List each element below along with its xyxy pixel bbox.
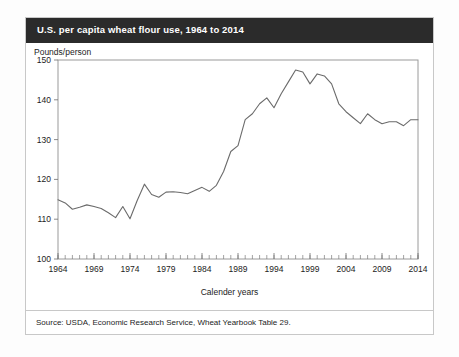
x-tick-label: 1969 (85, 264, 104, 274)
card-header: U.S. per capita wheat flour use, 1964 to… (26, 18, 433, 43)
page-title: U.S. per capita wheat flour use, 1964 to… (37, 24, 244, 35)
x-tick-label: 1974 (121, 264, 140, 274)
y-tick-label: 150 (37, 55, 51, 65)
source-note: Source: USDA, Economic Research Service,… (36, 318, 291, 327)
y-tick-label: 110 (37, 214, 51, 224)
x-tick-label: 1979 (157, 264, 176, 274)
x-tick-label: 2004 (337, 264, 356, 274)
y-tick-label: 100 (37, 254, 51, 264)
plot-frame (58, 60, 418, 259)
chart-card: U.S. per capita wheat flour use, 1964 to… (25, 17, 434, 335)
y-tick-label: 130 (37, 135, 51, 145)
card-footer: Source: USDA, Economic Research Service,… (26, 310, 433, 334)
x-tick-label: 1999 (301, 264, 320, 274)
x-tick-label: 1964 (49, 264, 68, 274)
x-tick-label: 1984 (193, 264, 212, 274)
chart-body: Pounds/person 10011012013014015019641969… (26, 43, 433, 311)
y-tick-label: 120 (37, 174, 51, 184)
line-chart: 1001101201301401501964196919741979198419… (26, 43, 435, 311)
data-series-line (58, 70, 418, 219)
x-tick-label: 2014 (409, 264, 428, 274)
x-axis-title: Calender years (26, 287, 433, 297)
x-tick-label: 1994 (265, 264, 284, 274)
x-tick-label: 1989 (229, 264, 248, 274)
y-tick-label: 140 (37, 95, 51, 105)
x-tick-label: 2009 (373, 264, 392, 274)
screenshot-root: U.S. per capita wheat flour use, 1964 to… (0, 0, 459, 357)
